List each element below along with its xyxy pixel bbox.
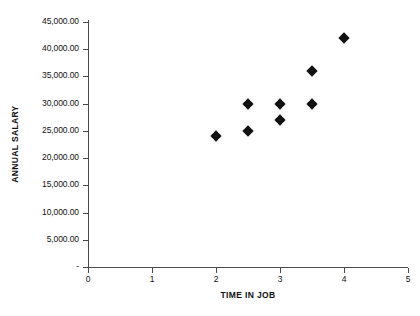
x-axis-tick-label: 1 [140, 274, 164, 284]
y-axis-tick-label: 40,000.00 [42, 44, 79, 53]
y-axis-tick-label: - [76, 262, 79, 271]
y-axis-tick [83, 49, 88, 50]
data-point [274, 98, 285, 109]
y-axis-tick [83, 131, 88, 132]
x-axis-tick-label: 2 [204, 274, 228, 284]
x-axis-tick [152, 268, 153, 273]
x-axis-tick [216, 268, 217, 273]
y-axis-tick [83, 213, 88, 214]
y-axis-tick-label: 5,000.00 [47, 235, 79, 244]
y-axis-tick-label: 35,000.00 [42, 71, 79, 80]
y-axis-tick [83, 185, 88, 186]
y-axis-tick-label: 30,000.00 [42, 99, 79, 108]
y-axis-tick [83, 240, 88, 241]
x-axis-tick [280, 268, 281, 273]
y-axis-title: ANNUAL SALARY [10, 84, 20, 204]
y-axis-tick [83, 104, 88, 105]
y-axis-tick-label: 25,000.00 [42, 126, 79, 135]
data-point [274, 114, 285, 125]
y-axis-line [88, 20, 89, 268]
x-axis-tick-label: 5 [396, 274, 420, 284]
data-point [306, 98, 317, 109]
x-axis-tick-label: 3 [268, 274, 292, 284]
x-axis-tick-label: 4 [332, 274, 356, 284]
x-axis-tick [344, 268, 345, 273]
y-axis-tick [83, 76, 88, 77]
y-axis-tick-label: 15,000.00 [42, 180, 79, 189]
data-point [338, 33, 349, 44]
data-point [210, 131, 221, 142]
data-point [242, 125, 253, 136]
y-axis-tick-label: 20,000.00 [42, 153, 79, 162]
x-axis-tick [88, 268, 89, 273]
data-point [306, 65, 317, 76]
x-axis-line [88, 267, 408, 268]
x-axis-title: TIME IN JOB [148, 290, 348, 300]
y-axis-tick [83, 22, 88, 23]
scatter-chart: -5,000.0010,000.0015,000.0020,000.0025,0… [0, 0, 420, 316]
x-axis-tick [408, 268, 409, 273]
y-axis-tick [83, 158, 88, 159]
x-axis-tick-label: 0 [76, 274, 100, 284]
y-axis-tick-label: 10,000.00 [42, 208, 79, 217]
data-point [242, 98, 253, 109]
y-axis-tick-label: 45,000.00 [42, 17, 79, 26]
